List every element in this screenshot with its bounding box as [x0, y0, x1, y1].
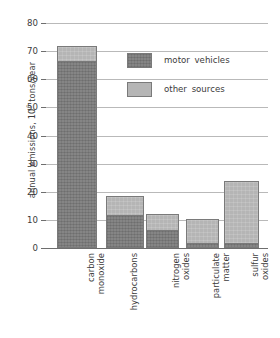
bar-hydrocarbons	[106, 196, 144, 248]
bar-segment-motor-vehicles	[107, 215, 143, 247]
y-tick-mark-80	[41, 23, 46, 24]
y-tick-mark-40	[41, 136, 46, 137]
y-axis-title-prefix: annual emissions, 10	[27, 109, 37, 199]
y-tick-mark-70	[41, 51, 46, 52]
legend-label-motor-vehicles: motor vehicles	[164, 55, 230, 65]
x-axis-label-line1: carbon	[86, 253, 96, 282]
x-axis-label-line2: oxides	[182, 253, 192, 288]
bar-segment-motor-vehicles	[225, 243, 258, 247]
bar-segment-motor-vehicles	[58, 61, 96, 247]
y-tick-label-40: 40	[27, 131, 38, 141]
x-axis-label-particulate-matter: particulatematter	[212, 253, 231, 298]
y-tick-mark-50	[41, 107, 46, 108]
y-tick-mark-20	[41, 192, 46, 193]
gridline-80	[46, 23, 268, 24]
y-tick-label-30: 30	[27, 159, 38, 169]
legend-swatch-other-sources-icon	[127, 82, 152, 97]
x-axis-label-line1: nitrogen	[171, 253, 181, 288]
bar-segment-motor-vehicles	[147, 230, 178, 247]
bar-segment-motor-vehicles	[187, 243, 218, 247]
x-axis-label-line2: matter	[222, 253, 232, 298]
y-tick-label-10: 10	[27, 215, 38, 225]
y-tick-label-70: 70	[27, 46, 38, 56]
legend-label-other-sources: other sources	[164, 84, 225, 94]
y-tick-mark-0	[41, 248, 46, 249]
legend-entry-other-sources: other sources	[127, 79, 230, 99]
legend-swatch-motor-vehicles-icon	[127, 53, 152, 68]
bar-segment-other-sources	[187, 220, 218, 245]
y-tick-label-20: 20	[27, 187, 38, 197]
x-axis-label-hydrocarbons: hydrocarbons	[130, 253, 140, 310]
x-axis-label-sulfur-oxides: sulfuroxides	[251, 253, 270, 280]
bar-particulate-matter	[186, 219, 219, 248]
bar-nitrogen-oxides	[146, 214, 179, 248]
x-axis-label-line2: oxides	[261, 253, 271, 280]
x-axis-baseline	[46, 248, 268, 249]
y-tick-label-80: 80	[27, 18, 38, 28]
bar-segment-other-sources	[225, 182, 258, 246]
y-tick-mark-10	[41, 220, 46, 221]
y-tick-mark-30	[41, 164, 46, 165]
x-axis-label-line1: sulfur	[250, 253, 260, 277]
x-axis-label-line1: particulate	[211, 253, 221, 298]
y-tick-label-60: 60	[27, 74, 38, 84]
legend-entry-motor-vehicles: motor vehicles	[127, 50, 230, 70]
emissions-bar-chart: annual emissions, 106 tons/year 80706050…	[0, 0, 280, 338]
chart-legend: motor vehicles other sources	[127, 50, 230, 108]
x-axis-label-line2: monoxide	[96, 253, 106, 294]
bar-sulfur-oxides	[224, 181, 259, 249]
bar-carbon-monoxide	[57, 46, 97, 249]
bar-segment-other-sources	[107, 197, 143, 217]
y-tick-mark-60	[41, 79, 46, 80]
y-tick-label-50: 50	[27, 102, 38, 112]
x-axis-label-nitrogen-oxides: nitrogenoxides	[172, 253, 191, 288]
x-axis-label-carbon-monoxide: carbonmonoxide	[87, 253, 106, 294]
y-tick-label-0: 0	[33, 243, 38, 253]
x-axis-label-line1: hydrocarbons	[129, 253, 139, 310]
